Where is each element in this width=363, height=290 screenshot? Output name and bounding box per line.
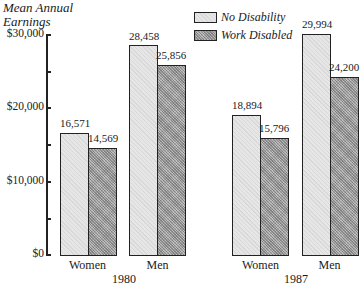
category-label-men-1987: Men xyxy=(302,258,357,273)
value-men-1980-no-disability: 28,458 xyxy=(124,30,164,42)
legend-swatch-work-disabled xyxy=(194,30,217,41)
value-men-1980-work-disabled: 25,856 xyxy=(151,49,191,61)
legend-label-work-disabled: Work Disabled xyxy=(221,28,292,43)
y-tick-10000 xyxy=(46,181,51,183)
y-tick-label-10000: $10,000 xyxy=(0,174,44,186)
category-label-women-1987: Women xyxy=(233,258,288,273)
legend-label-no-disability: No Disability xyxy=(221,10,285,25)
legend-swatch-no-disability xyxy=(194,12,217,23)
y-tick-5000 xyxy=(46,218,51,220)
bar-men-1987-work-disabled xyxy=(330,77,359,256)
value-men-1987-work-disabled: 24,200 xyxy=(324,61,363,73)
y-tick-30000 xyxy=(46,34,51,36)
bar-women-1987-work-disabled xyxy=(260,138,289,256)
year-label-1980: 1980 xyxy=(104,272,144,287)
category-label-women-1980: Women xyxy=(60,258,115,273)
y-tick-label-30000: $30,000 xyxy=(0,27,44,39)
value-women-1987-work-disabled: 15,796 xyxy=(254,122,294,134)
bar-women-1980-work-disabled xyxy=(88,148,117,256)
value-women-1980-no-disability: 16,571 xyxy=(55,117,95,129)
year-label-1987: 1987 xyxy=(276,272,316,287)
value-men-1987-no-disability: 29,994 xyxy=(297,18,337,30)
y-tick-0 xyxy=(46,254,51,256)
y-tick-15000 xyxy=(46,144,51,146)
y-axis-title: Mean Annual Earnings xyxy=(3,1,73,29)
bar-women-1980-no-disability xyxy=(60,133,89,256)
bar-women-1987-no-disability xyxy=(232,115,261,256)
y-tick-25000 xyxy=(46,71,51,73)
bar-men-1980-work-disabled xyxy=(157,65,186,256)
value-women-1980-work-disabled: 14,569 xyxy=(83,132,123,144)
y-tick-label-20000: $20,000 xyxy=(0,100,44,112)
y-tick-label-0: $0 xyxy=(0,247,44,259)
bar-men-1980-no-disability xyxy=(129,45,158,256)
y-tick-20000 xyxy=(46,107,51,109)
value-women-1987-no-disability: 18,894 xyxy=(227,99,267,111)
y-axis-title-line1: Mean Annual xyxy=(3,1,73,15)
category-label-men-1980: Men xyxy=(130,258,185,273)
